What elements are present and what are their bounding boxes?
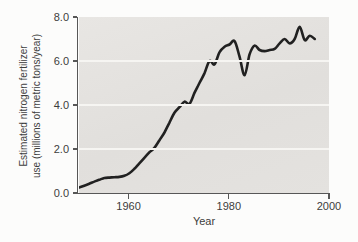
y-tick-label: 4.0 — [38, 98, 69, 113]
x-tick-label: 1960 — [109, 199, 149, 213]
x-axis-line — [77, 193, 330, 194]
y-tick-label: 8.0 — [38, 10, 69, 25]
y-gridline — [79, 148, 330, 149]
y-axis-line — [77, 17, 78, 194]
y-tick-mark — [73, 148, 78, 149]
y-tick-mark — [73, 60, 78, 61]
y-tick-mark — [73, 16, 78, 17]
x-axis-title: Year — [178, 215, 230, 227]
y-axis-title-line1: Estimated nitrogen fertilizer — [18, 45, 29, 166]
y-gridline — [79, 104, 330, 105]
y-tick-label: 6.0 — [38, 54, 69, 69]
y-gridline — [79, 60, 330, 61]
y-tick-mark — [73, 192, 78, 193]
x-tick-label: 2000 — [309, 199, 349, 213]
y-tick-label: 2.0 — [38, 142, 69, 157]
y-tick-label: 0.0 — [38, 186, 69, 201]
x-tick-label: 1980 — [209, 199, 249, 213]
plot-area — [79, 17, 330, 193]
fertilizer-use-chart: Estimated nitrogen fertilizer use (milli… — [0, 0, 358, 242]
fertilizer-use-line — [79, 27, 315, 188]
y-tick-mark — [73, 104, 78, 105]
